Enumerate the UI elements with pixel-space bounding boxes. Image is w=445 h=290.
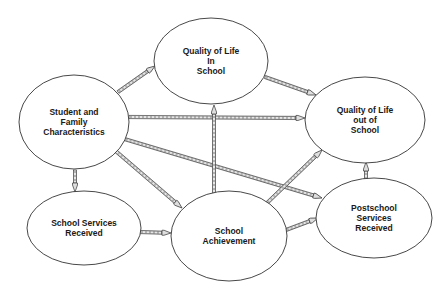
path-diagram — [0, 0, 445, 290]
node-label-line: School — [203, 226, 256, 236]
arrowhead-icon — [212, 105, 217, 114]
arrowhead-icon — [73, 183, 78, 192]
arrow-sfc-to-qol_in — [117, 64, 157, 94]
node-label-qol_out: Quality of Lifeout ofSchool — [337, 105, 394, 135]
node-label-line: Quality of Life — [183, 46, 240, 56]
node-label-line: Characteristics — [43, 127, 104, 137]
arrow-psr-to-qol_out — [364, 162, 369, 180]
arrow-sfc-to-psr — [120, 136, 322, 201]
node-label-line: Services — [351, 213, 397, 223]
arrowhead-icon — [162, 230, 171, 235]
node-label-line: School Services — [51, 218, 117, 228]
node-label-line: In — [183, 56, 240, 66]
node-label-qol_in: Quality of LifeInSchool — [183, 46, 240, 76]
node-label-sfc: Student andFamilyCharacteristics — [43, 107, 104, 137]
arrowhead-icon — [296, 115, 305, 120]
arrow-sa-to-psr — [285, 216, 319, 233]
node-label-line: Achievement — [203, 236, 256, 246]
node-label-line: Received — [351, 223, 397, 233]
node-label-ssr: School ServicesReceived — [51, 218, 117, 238]
arrow-sfc-to-qol_out — [129, 115, 305, 121]
node-label-line: Postschool — [351, 203, 397, 213]
node-label-line: out of — [337, 115, 394, 125]
node-label-sa: SchoolAchievement — [203, 226, 256, 246]
arrow-qol_in-to-qol_out — [264, 75, 317, 98]
arrow-ssr-to-sa — [140, 230, 171, 236]
node-label-line: Received — [51, 228, 117, 238]
node-label-psr: PostschoolServicesReceived — [351, 203, 397, 233]
arrowhead-icon — [313, 193, 323, 200]
node-label-line: Family — [43, 117, 104, 127]
node-label-line: Student and — [43, 107, 104, 117]
arrow-sfc-to-ssr — [73, 170, 78, 192]
node-label-line: School — [337, 125, 394, 135]
node-label-line: School — [183, 66, 240, 76]
arrow-sa-to-qol_in — [212, 105, 217, 195]
node-label-line: Quality of Life — [337, 105, 394, 115]
